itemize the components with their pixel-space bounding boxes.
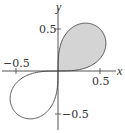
y-tick-label-neg: −0.5 — [62, 108, 89, 121]
shaded-loop-q1 — [58, 23, 106, 71]
polar-plot: x y −0.5 0.5 0.5 −0.5 — [0, 0, 125, 133]
x-axis-label: x — [116, 64, 123, 78]
y-tick-label-pos: 0.5 — [39, 23, 57, 36]
y-axis-label: y — [55, 0, 62, 14]
loop-q3 — [10, 71, 58, 119]
x-tick-label-pos: 0.5 — [92, 75, 110, 88]
x-tick-label-neg: −0.5 — [3, 57, 30, 70]
